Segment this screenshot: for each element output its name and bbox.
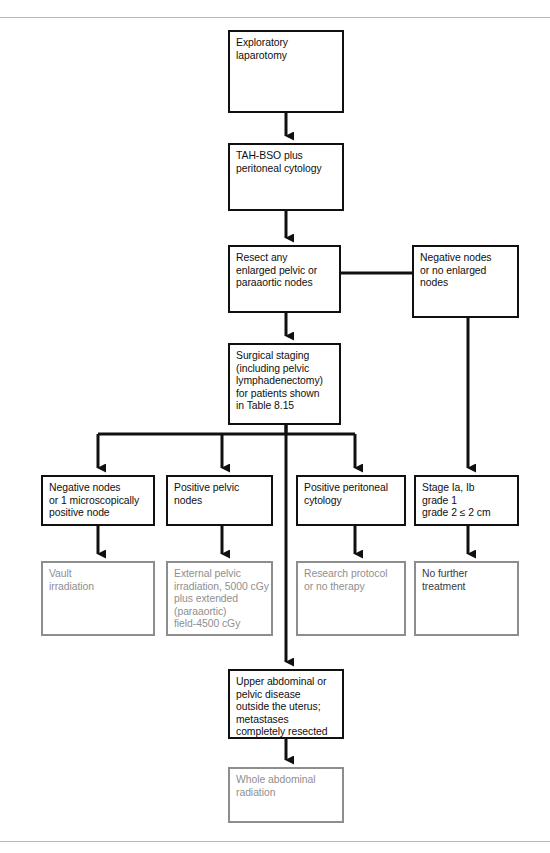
node-negative-nodes-or-1-microscopically-positive[interactable]: Negative nodes or 1 microscopically posi… [41,475,155,526]
node-line: positive node [49,507,148,520]
node-line: (including pelvic [236,363,334,376]
node-line: External pelvic [174,568,266,581]
node-line: irradiation [49,581,148,594]
node-line: Negative nodes [420,252,512,265]
node-whole-abdominal-radiation[interactable]: Whole abdominal radiation [228,767,344,823]
node-line: Exploratory [236,37,337,50]
node-line: outside the uterus; [236,701,337,714]
node-line: plus extended [174,593,266,606]
node-line: grade 1 [422,495,512,508]
node-line: enlarged pelvic or [236,265,334,278]
node-line: treatment [422,581,512,594]
node-line: in Table 8.15 [236,400,334,413]
node-vault-irradiation[interactable]: Vault irradiation [41,561,155,636]
node-line: or no enlarged [420,265,512,278]
node-line: paraaortic nodes [236,277,334,290]
node-line: irradiation, 5000 cGy [174,581,266,594]
node-line: lymphadenectomy) [236,375,334,388]
node-external-pelvic-irradiation[interactable]: External pelvic irradiation, 5000 cGy pl… [166,561,273,636]
node-stage-ia-ib[interactable]: Stage Ia, Ib grade 1 grade 2 ≤ 2 cm [414,475,519,526]
node-line: cytology [304,495,399,508]
node-line: Surgical staging [236,350,334,363]
node-line: Upper abdominal or [236,676,337,689]
node-line: pelvic disease [236,689,337,702]
node-line: field-4500 cGy [174,618,266,631]
node-line: or 1 microscopically [49,495,148,508]
node-line: Positive peritoneal [304,482,399,495]
node-negative-or-no-enlarged-nodes[interactable]: Negative nodes or no enlarged nodes [412,245,519,318]
node-line: laparotomy [236,50,337,63]
node-tah-bso-peritoneal-cytology[interactable]: TAH-BSO plus peritoneal cytology [228,143,344,211]
node-line: for patients shown [236,388,334,401]
node-line: grade 2 ≤ 2 cm [422,507,512,520]
node-line: nodes [420,277,512,290]
node-upper-abdominal-or-pelvic-disease[interactable]: Upper abdominal or pelvic disease outsid… [228,669,344,739]
node-line: metastases [236,714,337,727]
node-line: Whole abdominal [236,774,337,787]
node-positive-peritoneal-cytology[interactable]: Positive peritoneal cytology [296,475,406,526]
flowchart-page: Exploratory laparotomy TAH-BSO plus peri… [0,0,550,853]
node-line: Vault [49,568,148,581]
node-line: completely resected [236,726,337,739]
node-exploratory-laparotomy[interactable]: Exploratory laparotomy [228,30,344,113]
node-line: Research protocol [304,568,399,581]
node-resect-enlarged-nodes[interactable]: Resect any enlarged pelvic or paraaortic… [228,245,341,313]
node-line: (paraaortic) [174,606,266,619]
node-line: radiation [236,787,337,800]
node-line: peritoneal cytology [236,163,337,176]
node-line: or no therapy [304,581,399,594]
node-line: No further [422,568,512,581]
node-line: nodes [174,495,266,508]
node-no-further-treatment[interactable]: No further treatment [414,561,519,636]
node-line: Negative nodes [49,482,148,495]
node-line: TAH-BSO plus [236,150,337,163]
node-surgical-staging[interactable]: Surgical staging (including pelvic lymph… [228,343,341,425]
node-line: Resect any [236,252,334,265]
node-line: Positive pelvic [174,482,266,495]
node-line: Stage Ia, Ib [422,482,512,495]
node-positive-pelvic-nodes[interactable]: Positive pelvic nodes [166,475,273,526]
node-research-protocol[interactable]: Research protocol or no therapy [296,561,406,636]
